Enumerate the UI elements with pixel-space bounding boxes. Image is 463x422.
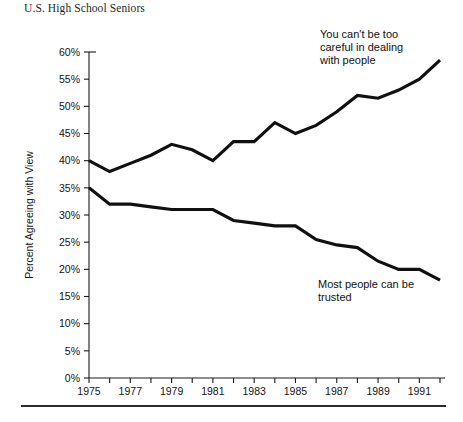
y-tick-label: 25% (59, 236, 80, 248)
x-tick-label: 1989 (366, 385, 390, 397)
x-tick-label: 1979 (160, 385, 184, 397)
x-tick-label: 1975 (77, 385, 101, 397)
y-tick-label: 45% (59, 127, 80, 139)
series-line-most-people-trusted (89, 188, 440, 280)
y-tick-label: 30% (59, 209, 80, 221)
bottom-divider (21, 405, 446, 407)
y-tick-label: 35% (59, 182, 80, 194)
annotation-most-people-trusted: Most people can be trusted (318, 278, 448, 304)
y-tick-label: 55% (59, 73, 80, 85)
y-tick-label: 15% (59, 290, 80, 302)
x-tick-label: 1991 (408, 385, 432, 397)
y-tick-label: 40% (59, 154, 80, 166)
y-tick-label: 50% (59, 100, 80, 112)
y-axis-title: Percent Agreeing with View (23, 151, 35, 279)
chart-figure: U.S. High School Seniors 0%5%10%15%20%25… (0, 0, 463, 422)
annotation-cant-be-too-careful: You can't be too careful in dealing with… (320, 28, 440, 68)
x-tick-label: 1987 (325, 385, 349, 397)
x-tick-label: 1977 (119, 385, 143, 397)
x-tick-label: 1981 (201, 385, 225, 397)
y-tick-label: 60% (59, 46, 80, 58)
y-tick-label: 5% (65, 345, 80, 357)
x-tick-label: 1985 (284, 385, 308, 397)
y-tick-label: 10% (59, 317, 80, 329)
x-tick-label: 1983 (242, 385, 266, 397)
y-tick-label: 20% (59, 263, 80, 275)
series-line-cant-be-too-careful (89, 60, 440, 171)
y-tick-label: 0% (65, 372, 80, 384)
